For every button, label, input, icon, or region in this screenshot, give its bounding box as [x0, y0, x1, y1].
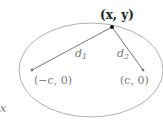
point-label: (x, y): [100, 8, 134, 22]
focus-right-label: (c, 0): [120, 74, 149, 87]
axis-fragment: x: [0, 102, 7, 115]
ellipse-diagram: (x, y) (−c, 0) (c, 0) d1 d2 x: [0, 0, 163, 123]
focus-left: [31, 69, 34, 72]
ellipse: [19, 23, 163, 117]
focus-right: [142, 69, 145, 72]
focus-left-label: (−c, 0): [34, 74, 72, 87]
point-on-ellipse: [110, 25, 114, 29]
distance-1-label: d1: [75, 47, 87, 61]
distance-line-1: [32, 27, 112, 70]
